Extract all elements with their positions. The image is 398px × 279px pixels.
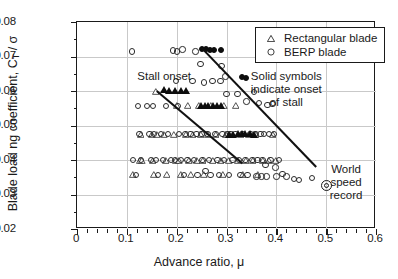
y-axis-title-subscript: T <box>11 54 21 60</box>
x-axis-tick-minor <box>137 229 138 233</box>
legend-item-rectangular-blade: Rectangular blade <box>261 31 377 45</box>
plot-area: Stall onsetSolid symbols indicate onset … <box>76 21 375 228</box>
x-axis-tick-minor <box>87 229 88 233</box>
x-axis-tick-minor <box>246 229 247 233</box>
x-axis-tick-minor <box>336 229 337 233</box>
circle-open-icon <box>261 48 281 56</box>
legend: Rectangular blade BERP blade <box>255 27 385 63</box>
x-axis-tick-minor <box>97 229 98 233</box>
x-axis-tick-minor <box>286 229 287 233</box>
y-axis-title-pre: Blade load ng coefficient, C <box>6 59 20 211</box>
x-axis-tick-minor <box>207 229 208 233</box>
x-axis-tick-minor <box>147 229 148 233</box>
x-axis-tick-minor <box>256 229 257 233</box>
y-axis-title-post: / σ <box>6 36 20 54</box>
figure: Stall onsetSolid symbols indicate onset … <box>0 0 398 279</box>
x-axis-tick-minor <box>346 229 347 233</box>
x-axis-tick-minor <box>107 229 108 233</box>
x-axis-title: Advance ratio, μ <box>0 255 398 269</box>
x-axis-tick-minor <box>237 229 238 233</box>
x-axis-tick-minor <box>157 229 158 233</box>
x-axis-tick-label: 0.2 <box>156 233 196 245</box>
x-axis-tick-label: 0 <box>56 233 96 245</box>
x-axis-tick-label: 0.3 <box>206 233 246 245</box>
legend-item-berp-blade: BERP blade <box>261 45 377 59</box>
world-speed-record-label: World speed record <box>330 163 363 202</box>
stall-onset-label: Stall onset <box>137 69 191 82</box>
x-axis-tick-minor <box>356 229 357 233</box>
legend-label-rectangular-blade: Rectangular blade <box>284 32 377 44</box>
x-axis-tick-minor <box>306 229 307 233</box>
x-axis-tick-minor <box>197 229 198 233</box>
x-axis-tick-label: 0.5 <box>305 233 345 245</box>
solid-symbols-note: Solid symbols indicate onset of stall <box>251 70 322 109</box>
x-axis-tick-minor <box>187 229 188 233</box>
legend-label-berp-blade: BERP blade <box>284 46 346 58</box>
y-axis-title: Blade load ng coefficient, CT / σ <box>6 9 21 239</box>
x-axis-tick-minor <box>296 229 297 233</box>
x-axis-tick-label: 0.1 <box>106 233 146 245</box>
x-axis-tick-label: 0.4 <box>255 233 295 245</box>
triangle-open-icon <box>261 35 281 42</box>
x-axis-tick-label: 0.6 <box>355 233 395 245</box>
